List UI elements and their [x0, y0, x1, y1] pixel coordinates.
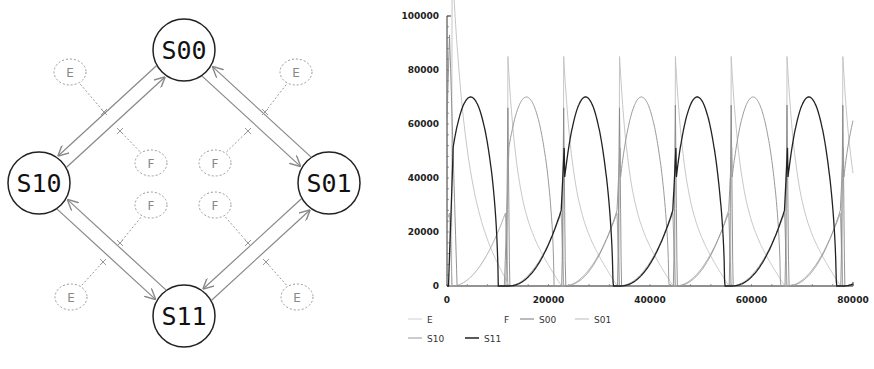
legend-item-E: E	[408, 315, 433, 325]
legend-item-S11: S11	[465, 334, 501, 344]
chart-lines	[447, 0, 853, 286]
chart-axes: 0200004000060000800001000000200004000060…	[401, 11, 868, 305]
node-label: S10	[16, 169, 61, 198]
x-tick-label: 60000	[736, 295, 767, 305]
x-tick-label: 80000	[837, 295, 868, 305]
time-series-chart: 0200004000060000800001000000200004000060…	[400, 0, 874, 369]
node-S00: S00	[153, 19, 215, 81]
legend-label: S01	[594, 315, 611, 325]
modifiers: EEFFFFEE	[54, 59, 313, 310]
legend-item-S01: S01	[575, 315, 611, 325]
modifier-label: E	[67, 291, 75, 305]
legend-label: S00	[539, 315, 556, 325]
modifier-F: F	[117, 128, 167, 176]
chart-legend: EFS00S01S10S11	[408, 315, 611, 344]
modifier-label: E	[66, 66, 74, 80]
modifier-E: E	[263, 259, 313, 310]
modifier-F: F	[199, 128, 251, 176]
node-S01: S01	[298, 152, 360, 214]
y-tick-label: 100000	[401, 11, 439, 21]
modifier-E: E	[262, 59, 312, 115]
modifier-label: F	[148, 199, 155, 213]
modifier-label: F	[212, 157, 219, 171]
legend-item-S00: S00	[520, 315, 556, 325]
edges	[57, 66, 311, 300]
y-tick-label: 0	[433, 281, 439, 291]
modifier-F: F	[199, 192, 251, 246]
legend-label: S10	[427, 334, 444, 344]
legend-label: E	[427, 315, 433, 325]
modifier-label: F	[212, 199, 219, 213]
node-label: S00	[161, 36, 206, 65]
legend-item-S10: S10	[408, 334, 444, 344]
node-label: S11	[161, 302, 206, 331]
modifier-E: E	[55, 259, 106, 310]
x-tick-label: 0	[444, 295, 450, 305]
node-S11: S11	[153, 285, 215, 347]
y-tick-label: 20000	[408, 227, 439, 237]
modifier-label: F	[148, 157, 155, 171]
legend-label: S11	[484, 334, 501, 344]
x-tick-label: 40000	[634, 295, 665, 305]
state-diagram: EEFFFFEE S00S01S10S11	[0, 0, 380, 369]
node-S10: S10	[8, 152, 70, 214]
legend-item-F: F	[485, 315, 509, 325]
x-tick-label: 20000	[533, 295, 564, 305]
modifier-label: E	[292, 66, 300, 80]
y-tick-label: 80000	[408, 65, 439, 75]
y-tick-label: 40000	[408, 173, 439, 183]
modifier-label: E	[293, 291, 301, 305]
modifier-E: E	[54, 59, 107, 115]
y-tick-label: 60000	[408, 119, 439, 129]
modifier-F: F	[117, 192, 167, 246]
node-label: S01	[306, 169, 351, 198]
legend-label: F	[504, 315, 509, 325]
